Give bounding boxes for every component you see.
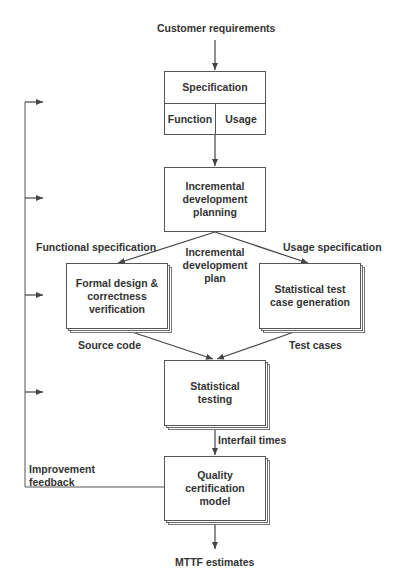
customer-requirements-label: Customer requirements [157, 22, 275, 34]
formal-design-text: Formal design & correctness verification [76, 277, 158, 316]
function-cell: Function [165, 104, 216, 135]
incremental-plan-label: Incremental development plan [180, 246, 250, 285]
statistical-testing-text: Statistical testing [190, 380, 240, 406]
usage-specification-label: Usage specification [283, 241, 382, 253]
specification-box: Specification Function Usage [164, 71, 266, 135]
cleanroom-process-diagram: Customer requirements Specification Func… [0, 0, 400, 583]
test-cases-label: Test cases [289, 339, 342, 351]
formal-design-box: Formal design & correctness verification [66, 263, 168, 329]
incremental-planning-text: Incremental development planning [183, 180, 248, 219]
improvement-feedback-label: Improvement feedback [29, 463, 95, 489]
mttf-estimates-label: MTTF estimates [175, 556, 254, 568]
statistical-test-generation-text: Statistical test case generation [270, 283, 350, 309]
statistical-testing-box: Statistical testing [164, 360, 266, 426]
functional-specification-label: Functional specification [36, 241, 156, 253]
incremental-planning-box: Incremental development planning [164, 167, 266, 232]
specification-title: Specification [165, 72, 265, 104]
quality-certification-text: Quality certification model [185, 469, 245, 508]
quality-certification-box: Quality certification model [164, 456, 266, 521]
interfail-times-label: Interfail times [218, 434, 286, 446]
source-code-label: Source code [78, 339, 141, 351]
usage-cell: Usage [216, 104, 266, 135]
statistical-test-generation-box: Statistical test case generation [259, 263, 361, 329]
